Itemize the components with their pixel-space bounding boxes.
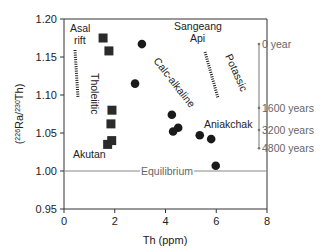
- tholeiitic-data-point: [107, 136, 116, 145]
- data-points: [99, 34, 220, 170]
- calc-alkaline-data-point: [131, 79, 140, 88]
- sangeang-label: Sangeang: [174, 20, 222, 32]
- asal-label: Asal: [70, 22, 90, 34]
- tholeiitic-data-point: [104, 46, 113, 55]
- time-scale-label: 3200 years: [262, 124, 314, 136]
- calc-alkaline-data-point: [211, 161, 220, 170]
- equilibrium-label: Equilibrium: [141, 165, 193, 177]
- potassic-label: Potassic: [223, 52, 250, 93]
- time-scale: 0 year1600 years3200 years4800 years: [258, 38, 314, 154]
- calc-alkaline-data-point: [168, 110, 177, 119]
- scatter-chart: 0.951.001.051.101.151.20 02468 Equilibri…: [0, 0, 328, 252]
- y-axis-label: (226Ra/230Th): [13, 84, 25, 145]
- tholeiitic-data-point: [107, 106, 116, 115]
- x-tick-label: 8: [264, 215, 270, 227]
- x-axis-label: Th (ppm): [143, 234, 188, 246]
- rift-label: rift: [74, 34, 86, 46]
- calc-alkaline-data-point: [207, 135, 216, 144]
- x-tick-label: 2: [112, 215, 118, 227]
- calc-alkaline-data-point: [195, 131, 204, 140]
- x-ticks: 02468: [61, 209, 270, 227]
- y-tick-label: 1.10: [36, 89, 57, 101]
- y-tick-label: 1.05: [36, 127, 57, 139]
- time-scale-marker: [258, 43, 261, 46]
- y-tick-label: 1.20: [36, 13, 57, 25]
- y-tick-label: 1.15: [36, 51, 57, 63]
- time-scale-label: 0 year: [262, 38, 292, 50]
- x-tick-label: 6: [213, 215, 219, 227]
- calc-alkaline-data-point: [169, 127, 178, 136]
- api-label: Api: [190, 32, 205, 44]
- y-ticks: 0.951.001.051.101.151.20: [36, 13, 64, 215]
- tholeiitic-data-point: [99, 34, 108, 43]
- x-tick-label: 0: [61, 215, 67, 227]
- time-scale-marker: [258, 147, 261, 150]
- time-scale-label: 4800 years: [262, 142, 314, 154]
- asal-rift-trend-line: [75, 50, 78, 98]
- time-scale-label: 1600 years: [262, 102, 314, 114]
- sangeang-api-trend-line: [205, 52, 218, 98]
- time-scale-marker: [258, 107, 261, 110]
- x-tick-label: 4: [162, 215, 168, 227]
- tholeiitic-data-point: [106, 119, 115, 128]
- aniakchak-label: Aniakchak: [204, 118, 253, 130]
- calc-alkaline-label: Calc-alkaline: [151, 55, 198, 110]
- calc-alkaline-data-point: [138, 40, 147, 49]
- y-tick-label: 0.95: [36, 203, 57, 215]
- y-tick-label: 1.00: [36, 165, 57, 177]
- tholeiitic-label: Tholeiitic: [89, 73, 101, 114]
- time-scale-marker: [258, 129, 261, 132]
- akutan-label: Akutan: [73, 148, 106, 160]
